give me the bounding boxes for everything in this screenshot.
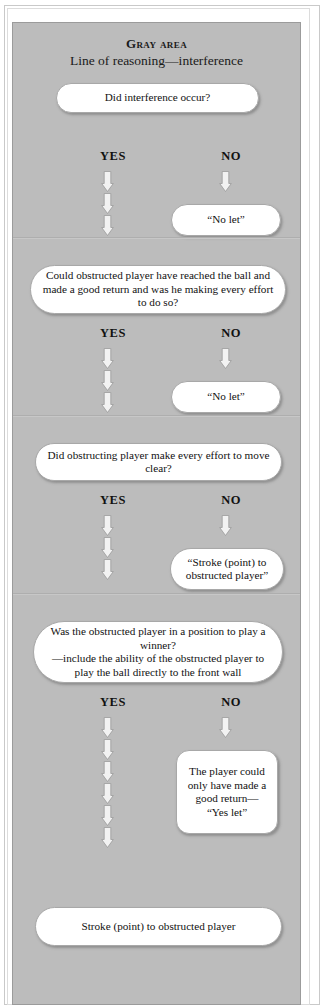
outcome-box-no-4: The player could only have made a good r… <box>176 750 278 834</box>
question-box-2: Could obstructed player have reached the… <box>30 265 286 314</box>
down-arrow-icon <box>101 805 114 826</box>
chart-header: Gray area Line of reasoning—interference <box>13 36 300 69</box>
question-box-3: Did obstructing player make every effort… <box>35 443 282 481</box>
branch-label-no-1: NO <box>201 149 261 164</box>
final-outcome-box: Stroke (point) to obstructed player <box>35 907 282 946</box>
outcome-box-no-3: “Stroke (point) to obstructed player” <box>170 548 284 590</box>
branch-label-no-2: NO <box>201 326 261 341</box>
question-box-1: Did interference occur? <box>56 83 259 113</box>
down-arrow-icon <box>101 215 114 236</box>
down-arrow-icon <box>101 193 114 214</box>
down-arrow-icon <box>101 370 114 391</box>
down-arrow-icon <box>101 783 114 804</box>
gray-area-panel: Gray area Line of reasoning—interference… <box>12 22 301 1005</box>
section-divider-3 <box>13 593 300 594</box>
down-arrow-icon <box>101 717 114 738</box>
down-arrow-icon <box>101 171 114 192</box>
down-arrow-icon <box>219 515 232 536</box>
down-arrow-icon <box>101 827 114 848</box>
question-text-3: Did obstructing player make every effort… <box>44 449 273 476</box>
down-arrow-icon <box>219 348 232 369</box>
branch-label-yes-4: YES <box>83 695 143 710</box>
branch-label-no-3: NO <box>201 493 261 508</box>
question-text-4: Was the obstructed player in a position … <box>42 625 274 679</box>
section-divider-2 <box>13 415 300 416</box>
page-subtitle: Line of reasoning—interference <box>13 52 300 69</box>
down-arrow-icon <box>101 537 114 558</box>
branch-label-no-4: NO <box>201 695 261 710</box>
outcome-box-no-1: “No let” <box>171 204 281 236</box>
down-arrow-icon <box>101 761 114 782</box>
down-arrow-icon <box>219 717 232 738</box>
branch-label-yes-1: YES <box>83 149 143 164</box>
outcome-box-no-2: “No let” <box>171 381 281 413</box>
flowchart-page: Gray area Line of reasoning—interference… <box>0 0 330 1005</box>
down-arrow-icon <box>219 171 232 192</box>
branch-label-yes-3: YES <box>83 493 143 508</box>
down-arrow-icon <box>101 559 114 580</box>
down-arrow-icon <box>101 739 114 760</box>
section-divider-1 <box>13 237 300 238</box>
final-outcome-text: Stroke (point) to obstructed player <box>44 920 273 934</box>
outcome-text-no-3: “Stroke (point) to obstructed player” <box>179 556 275 583</box>
down-arrow-icon <box>101 392 114 413</box>
question-box-4: Was the obstructed player in a position … <box>33 621 283 683</box>
question-text-1: Did interference occur? <box>65 91 250 105</box>
outcome-text-no-1: “No let” <box>180 213 272 227</box>
down-arrow-icon <box>101 515 114 536</box>
down-arrow-icon <box>101 348 114 369</box>
page-title: Gray area <box>13 36 300 51</box>
outcome-text-no-4: The player could only have made a good r… <box>185 765 269 819</box>
branch-label-yes-2: YES <box>83 326 143 341</box>
outcome-text-no-2: “No let” <box>180 390 272 404</box>
question-text-2: Could obstructed player have reached the… <box>39 269 277 310</box>
